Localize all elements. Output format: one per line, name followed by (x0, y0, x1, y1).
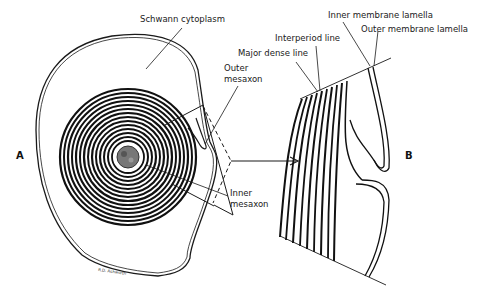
axon-core (117, 146, 139, 168)
expanded-lamellae (280, 81, 362, 261)
label-inner-mesaxon-line1: Inner (230, 188, 252, 199)
label-outer-membrane-lamella: Outer membrane lamella (361, 24, 468, 35)
label-interperiod-line: Interperiod line (275, 33, 340, 44)
label-schwann-cytoplasm: Schwann cytoplasm (140, 14, 225, 25)
label-outer-mesaxon-line2: mesaxon (224, 74, 263, 85)
label-inner-membrane-lamella: Inner membrane lamella (328, 10, 433, 21)
label-major-dense-line: Major dense line (238, 48, 308, 59)
panel-letter-a: A (16, 150, 24, 161)
label-outer-mesaxon-line1: Outer (224, 63, 248, 74)
myelin-sheath-diagram (0, 0, 486, 293)
label-inner-mesaxon-line2: mesaxon (230, 199, 269, 210)
panel-letter-b: B (405, 150, 413, 161)
